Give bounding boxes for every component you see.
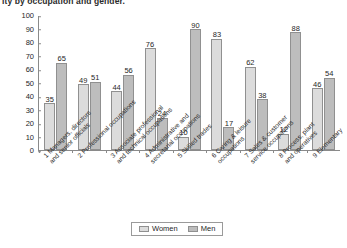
- bar-value-label: 38: [258, 92, 266, 100]
- bar-value-label: 49: [79, 77, 87, 85]
- bar-value-label: 62: [246, 59, 254, 67]
- bar-women[interactable]: 83: [211, 39, 222, 150]
- legend-label: Women: [152, 225, 178, 233]
- y-axis-tick-label: 20: [26, 120, 38, 128]
- y-axis-tick-label: 0: [30, 147, 38, 155]
- x-axis-category-labels: 1 Managers, directors and senior officia…: [39, 153, 341, 225]
- legend-label: Men: [201, 225, 216, 233]
- y-axis-tick-label: 70: [26, 53, 38, 61]
- y-axis-tick-label: 30: [26, 107, 38, 115]
- chart-legend: WomenMen: [131, 222, 223, 236]
- bar-value-label: 83: [213, 31, 221, 39]
- bar-value-label: 46: [313, 81, 321, 89]
- legend-item-men[interactable]: Men: [188, 225, 216, 233]
- bar-value-label: 90: [191, 22, 199, 30]
- bar-value-label: 54: [325, 70, 333, 78]
- bar-women[interactable]: 46: [312, 88, 323, 150]
- x-axis-label-slot: 7 Sales & customer service occupations: [240, 153, 274, 225]
- x-axis-label-slot: 3 Associate professional and technical o…: [106, 153, 140, 225]
- y-axis-tick-label: 100: [21, 12, 38, 20]
- y-axis-tick-label: 40: [26, 93, 38, 101]
- x-axis-label-slot: 8 Process, plant and operatives: [274, 153, 308, 225]
- bar-value-label: 44: [112, 84, 120, 92]
- x-axis-label-slot: 1 Managers, directors and senior officia…: [39, 153, 73, 225]
- legend-swatch-icon: [139, 226, 149, 232]
- y-axis-tick-label: 10: [26, 134, 38, 142]
- bar-value-label: 76: [146, 41, 154, 49]
- bar-value-label: 65: [58, 55, 66, 63]
- bar-value-label: 35: [46, 96, 54, 104]
- x-axis-label-slot: 5 Skilled trades: [173, 153, 207, 225]
- bar-value-label: 56: [124, 67, 132, 75]
- y-axis-tick-label: 60: [26, 66, 38, 74]
- y-axis-tick-label: 90: [26, 26, 38, 34]
- x-axis-label-slot: 9 Elementary: [308, 153, 342, 225]
- x-axis-label-slot: 4 Administrative and secretarial occupat…: [140, 153, 174, 225]
- legend-item-women[interactable]: Women: [139, 225, 178, 233]
- x-axis-label-slot: 2 Professional occupations: [73, 153, 107, 225]
- y-axis-tick-label: 50: [26, 80, 38, 88]
- x-axis-label-slot: 6 Caring & leisure occupations: [207, 153, 241, 225]
- bar-value-label: 51: [91, 74, 99, 82]
- bar-value-label: 17: [225, 120, 233, 128]
- legend-swatch-icon: [188, 226, 198, 232]
- bar-value-label: 88: [292, 25, 300, 33]
- y-axis-tick-label: 80: [26, 39, 38, 47]
- chart-title: ity by occupation and gender.: [2, 0, 125, 6]
